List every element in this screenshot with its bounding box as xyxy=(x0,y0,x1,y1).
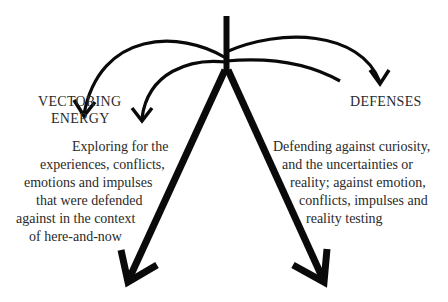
left-text-line: emotions and impulses xyxy=(24,174,152,192)
right-text-line: and the uncertainties or xyxy=(282,156,413,174)
lower-right-arc xyxy=(226,60,340,81)
left-text-line: of here-and-now xyxy=(29,228,122,246)
vectoring-energy-title-line1: VECTORING xyxy=(38,93,121,111)
diagram-canvas: VECTORING ENERGY DEFENSES Exploring for … xyxy=(0,0,448,302)
defenses-title: DEFENSES xyxy=(350,93,422,111)
left-text-line: that were defended xyxy=(36,192,143,210)
right-text-line: reality testing xyxy=(306,210,383,228)
right-text-line: reality; against emotion, xyxy=(290,174,426,192)
right-text-line: conflicts, impulses and xyxy=(299,192,428,210)
vectoring-energy-title-line2: ENERGY xyxy=(51,110,110,128)
left-text-line: Exploring for the xyxy=(72,138,168,156)
left-text-line: against in the context xyxy=(16,210,135,228)
right-text-line: Defending against curiosity, xyxy=(273,138,430,156)
left-text-line: experiences, conflicts, xyxy=(40,156,165,174)
